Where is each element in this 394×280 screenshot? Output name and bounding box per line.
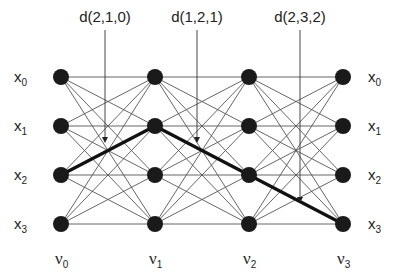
- node-1-1: [147, 118, 163, 134]
- node-0-0: [53, 69, 69, 85]
- annotation-label: d(2,3,2): [274, 8, 326, 25]
- annotation-2: d(2,3,2): [274, 8, 326, 203]
- left-row-label-2: x2: [14, 166, 28, 186]
- right-row-label-3: x3: [368, 215, 382, 235]
- node-0-1: [53, 118, 69, 134]
- node-3-3: [335, 216, 351, 232]
- node-0-3: [53, 216, 69, 232]
- node-1-3: [147, 216, 163, 232]
- node-3-2: [335, 167, 351, 183]
- left-row-label-0: x0: [14, 68, 28, 88]
- right-row-label-1: x1: [368, 117, 382, 137]
- annotation-label: d(1,2,1): [171, 8, 223, 25]
- column-label-0: ν0: [55, 249, 69, 270]
- left-row-label-1: x1: [14, 117, 28, 137]
- node-3-1: [335, 118, 351, 134]
- left-row-label-3: x3: [14, 215, 28, 235]
- trellis-diagram: d(2,1,0)d(1,2,1)d(2,3,2) x0x0x1x1x2x2x3x…: [0, 0, 394, 280]
- column-label-3: ν3: [337, 249, 351, 270]
- node-2-3: [241, 216, 257, 232]
- node-2-2: [241, 167, 257, 183]
- annotation-0: d(2,1,0): [79, 8, 131, 143]
- annotation-1: d(1,2,1): [171, 8, 223, 143]
- node-0-2: [53, 167, 69, 183]
- node-1-2: [147, 167, 163, 183]
- node-2-1: [241, 118, 257, 134]
- node-2-0: [241, 69, 257, 85]
- node-3-0: [335, 69, 351, 85]
- node-1-0: [147, 69, 163, 85]
- right-row-label-2: x2: [368, 166, 382, 186]
- column-label-2: ν2: [243, 249, 257, 270]
- right-row-label-0: x0: [368, 68, 382, 88]
- column-label-1: ν1: [149, 249, 163, 270]
- annotation-label: d(2,1,0): [79, 8, 131, 25]
